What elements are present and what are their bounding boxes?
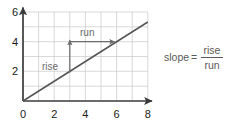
y-tick-label: 4 bbox=[12, 36, 18, 48]
y-tick-label: 6 bbox=[12, 6, 18, 18]
rise-label: rise bbox=[42, 61, 59, 72]
x-tick-label: 6 bbox=[114, 108, 120, 120]
x-tick-label: 8 bbox=[145, 108, 151, 120]
formula-denominator: run bbox=[204, 59, 219, 71]
formula-numerator: rise bbox=[204, 44, 221, 56]
run-label: run bbox=[80, 27, 94, 38]
slope-diagram: rise run 6 4 2 0 2 4 6 8 slope = rise ru… bbox=[0, 0, 231, 123]
formula-equals: = bbox=[191, 51, 197, 63]
y-tick-label: 2 bbox=[12, 65, 18, 77]
x-tick-label: 2 bbox=[51, 108, 57, 120]
x-tick-label: 4 bbox=[82, 108, 88, 120]
x-tick-label: 0 bbox=[20, 108, 26, 120]
formula-lhs: slope bbox=[164, 51, 189, 63]
